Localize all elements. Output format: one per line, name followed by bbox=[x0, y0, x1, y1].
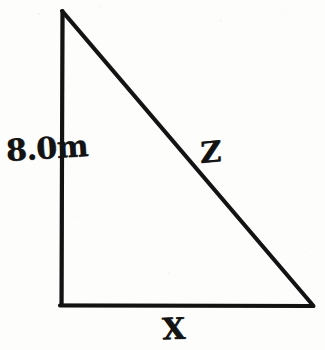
hypotenuse-ink-bleed bbox=[65, 11, 314, 303]
side-label-hypotenuse: Z bbox=[200, 137, 222, 168]
side-label-base: X bbox=[161, 314, 185, 345]
scanned-diagram-canvas: 8.0m Z X bbox=[0, 0, 325, 350]
side-label-height: 8.0m bbox=[5, 131, 89, 166]
horizontal-leg-line bbox=[60, 306, 313, 307]
right-triangle-figure bbox=[0, 0, 325, 350]
horizontal-leg-ink-bleed bbox=[63, 304, 311, 305]
hypotenuse-line bbox=[62, 11, 314, 306]
